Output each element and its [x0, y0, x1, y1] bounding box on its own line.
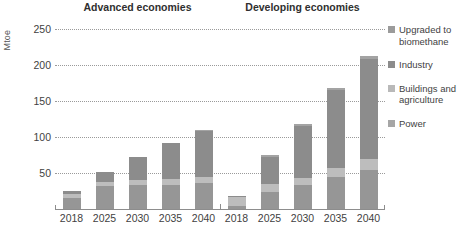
legend-item[interactable]: Buildings and agriculture [388, 83, 468, 106]
legend-label: Industry [399, 59, 433, 71]
panel-advanced-economies: Advanced economies [55, 22, 220, 209]
bar-segment [327, 177, 345, 209]
y-axis-title: Mtoe [2, 30, 12, 50]
stacked-bar[interactable] [195, 130, 213, 209]
y-tick-label-150: 150 [19, 95, 51, 107]
bar-segment [261, 184, 279, 192]
bar-segment [195, 183, 213, 209]
stacked-bar[interactable] [63, 191, 81, 209]
panel-title: Developing economies [220, 1, 385, 13]
chart-container: Mtoe 50100150200250 Advanced economiesDe… [0, 0, 468, 239]
bar-slot [360, 22, 378, 209]
x-tick-label-2035: 2035 [321, 212, 351, 232]
stacked-bar[interactable] [162, 143, 180, 209]
bar-segment [360, 159, 378, 170]
legend-swatch-icon [388, 85, 395, 92]
bar-segment [360, 170, 378, 209]
bar-slot [327, 22, 345, 209]
legend-label: Upgraded to biomethane [399, 24, 468, 47]
legend-item[interactable]: Power [388, 118, 468, 130]
stacked-bar[interactable] [129, 157, 147, 209]
bar-segment [228, 197, 246, 206]
bar-slot [162, 22, 180, 209]
x-axis-left-cap [55, 205, 56, 210]
bar-segment [162, 185, 180, 209]
bar-segment [327, 168, 345, 177]
stacked-bar[interactable] [294, 124, 312, 209]
x-tick-label-2018: 2018 [57, 212, 87, 232]
bar-segment [294, 126, 312, 178]
legend-item[interactable]: Upgraded to biomethane [388, 24, 468, 47]
stacked-bar[interactable] [261, 155, 279, 209]
x-axis-labels: 2018202520302035204020182025203020352040 [55, 212, 385, 232]
bar-segment [327, 90, 345, 168]
panel-separator-tick [220, 204, 221, 210]
x-axis-right-cap [384, 205, 385, 210]
bar-segment [63, 198, 81, 210]
x-tick-label-2035: 2035 [156, 212, 186, 232]
bar-segment [294, 178, 312, 185]
legend-item[interactable]: Industry [388, 59, 468, 71]
bar-segment [294, 185, 312, 209]
bar-slot [195, 22, 213, 209]
stacked-bar[interactable] [360, 56, 378, 209]
legend-label: Power [399, 118, 426, 130]
x-tick-label-2030: 2030 [123, 212, 153, 232]
bar-slot [63, 22, 81, 209]
bar-segment [195, 131, 213, 177]
panel-developing-economies: Developing economies [220, 22, 385, 209]
x-label-group: 20182025203020352040 [220, 212, 385, 232]
bar-slot [228, 22, 246, 209]
stacked-bar[interactable] [96, 172, 114, 209]
stacked-bar[interactable] [228, 196, 246, 209]
legend-swatch-icon [388, 61, 395, 68]
y-tick-label-200: 200 [19, 59, 51, 71]
panel-title: Advanced economies [55, 1, 220, 13]
bar-segment [162, 143, 180, 179]
bar-segment [129, 157, 147, 180]
x-tick-label-2025: 2025 [90, 212, 120, 232]
legend-label: Buildings and agriculture [399, 83, 468, 106]
y-tick-label-100: 100 [19, 131, 51, 143]
stacked-bar[interactable] [327, 88, 345, 209]
x-tick-label-2030: 2030 [288, 212, 318, 232]
y-tick-label-50: 50 [19, 167, 51, 179]
x-tick-label-2025: 2025 [255, 212, 285, 232]
x-tick-label-2018: 2018 [222, 212, 252, 232]
bar-segment [261, 157, 279, 184]
bar-segment [360, 59, 378, 160]
legend: Upgraded to biomethaneIndustryBuildings … [388, 24, 468, 141]
plot-area: 50100150200250 Advanced economiesDevelop… [55, 22, 385, 209]
panel-group: Advanced economiesDeveloping economies [55, 22, 385, 209]
bar-segment [96, 172, 114, 182]
bar-segment [96, 186, 114, 209]
bar-slot [261, 22, 279, 209]
x-label-group: 20182025203020352040 [55, 212, 220, 232]
x-tick-label-2040: 2040 [189, 212, 219, 232]
bar-segment [129, 185, 147, 209]
bar-slot [294, 22, 312, 209]
legend-swatch-icon [388, 26, 395, 33]
bar-slot [96, 22, 114, 209]
legend-swatch-icon [388, 120, 395, 127]
y-tick-label-250: 250 [19, 23, 51, 35]
bar-segment [261, 192, 279, 209]
x-tick-label-2040: 2040 [354, 212, 384, 232]
bar-slot [129, 22, 147, 209]
